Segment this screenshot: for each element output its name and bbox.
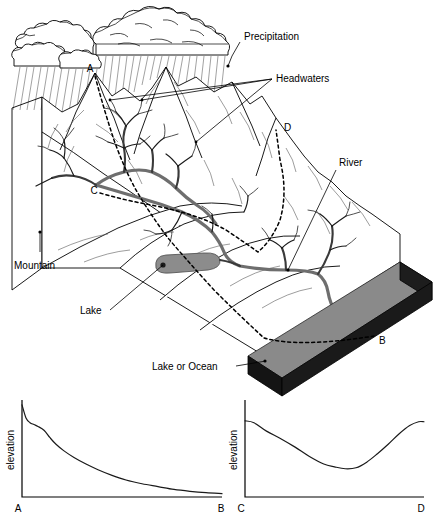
lake-or-ocean-label: Lake or Ocean — [152, 361, 218, 372]
point-label-a: A — [87, 63, 94, 74]
mountain-label: Mountain — [14, 260, 55, 271]
river-label: River — [339, 157, 363, 168]
figure-root: A C D B Precipitation Headwaters River M… — [0, 0, 433, 525]
chart-ab-xtick-start: A — [15, 503, 22, 514]
headwaters-label: Headwaters — [276, 73, 329, 84]
point-label-d: D — [284, 122, 291, 133]
point-label-b: B — [379, 335, 386, 346]
chart-ab-xtick-end: B — [218, 503, 225, 514]
callout-mountain — [38, 230, 41, 252]
chart-cd-xtick-start: C — [237, 503, 244, 514]
chart-cd-xtick-end: D — [417, 503, 424, 514]
precipitation-label: Precipitation — [244, 31, 299, 42]
lake-label: Lake — [80, 305, 102, 316]
cloud-right — [93, 6, 230, 55]
chart-ab-ylabel: elevation — [5, 430, 16, 470]
point-label-c: C — [90, 185, 97, 196]
chart-cd-ylabel: elevation — [228, 430, 239, 470]
chart-ab: elevation A B — [5, 400, 225, 514]
chart-cd: elevation C D — [228, 400, 425, 514]
